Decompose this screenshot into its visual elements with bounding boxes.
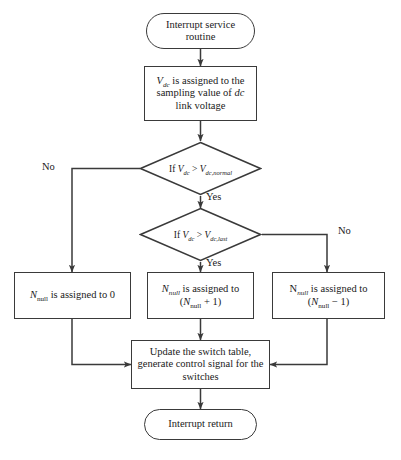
node-end-label: Interrupt return xyxy=(164,418,236,430)
node-start-label: Interrupt service routine xyxy=(162,19,239,44)
node-update-switch-table-label: Update the switch table, generate contro… xyxy=(134,346,268,383)
edge-label-yes-first: Yes xyxy=(206,191,221,202)
node-decision-vdc-normal: If Vdc > Vdc,normal xyxy=(139,141,262,196)
decision-vdc-normal-label: If Vdc > Vdc,normal xyxy=(139,141,262,196)
edge-label-yes-second: Yes xyxy=(206,257,221,268)
node-nnull-assign-zero-label: Nnull is assigned to 0 xyxy=(26,289,119,301)
node-nnull-increment-label: Nnull is assigned to (Nnull + 1) xyxy=(158,283,243,308)
decision-vdc-last-label: If Vdc > Vdc,last xyxy=(139,207,262,262)
node-nnull-decrement: Nnull is assigned to (Nnull − 1) xyxy=(272,272,385,319)
node-nnull-assign-zero: Nnull is assigned to 0 xyxy=(14,272,131,319)
node-end-interrupt-return: Interrupt return xyxy=(144,409,257,440)
edge-label-no-right: No xyxy=(338,225,351,236)
node-decision-vdc-last: If Vdc > Vdc,last xyxy=(139,207,262,262)
node-assign-vdc: Vdc is assigned to the sampling value of… xyxy=(144,66,257,121)
node-start-interrupt-service-routine: Interrupt service routine xyxy=(146,13,255,49)
node-update-switch-table: Update the switch table, generate contro… xyxy=(131,340,270,389)
node-nnull-decrement-label: Nnull is assigned to (Nnull − 1) xyxy=(286,283,372,308)
edge-label-no-left: No xyxy=(42,161,55,172)
node-nnull-increment: Nnull is assigned to (Nnull + 1) xyxy=(147,272,254,319)
flowchart-canvas: Interrupt service routine Vdc is assigne… xyxy=(0,0,401,460)
node-assign-vdc-label: Vdc is assigned to the sampling value of… xyxy=(153,75,249,112)
